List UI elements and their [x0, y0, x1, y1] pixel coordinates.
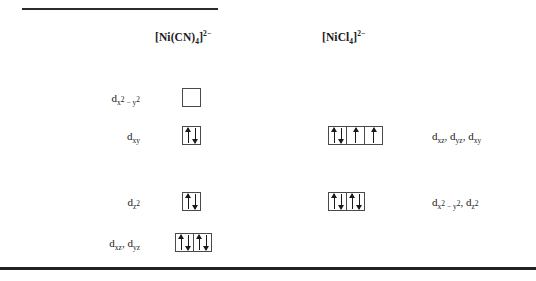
- arrow-head: [338, 139, 344, 144]
- electron-pair: [194, 234, 211, 251]
- electron-pair: [176, 234, 193, 251]
- electron-arrow-down: [192, 193, 199, 210]
- arrow-head: [185, 193, 191, 198]
- electron-arrow-up: [331, 127, 338, 144]
- arrow-head: [371, 127, 377, 132]
- electron-arrow-down: [356, 193, 363, 210]
- orbital-box-filled: [346, 192, 365, 211]
- column-header-ni-cn: [Ni(CN)4]2−: [155, 31, 211, 43]
- row-dx2y2-left-label: dx2 − y2: [0, 85, 140, 111]
- row-dz2-ni-cn-boxes: [182, 192, 201, 211]
- row-dxz-dyz-left-label: dxz, dyz: [0, 230, 140, 256]
- row-dz2: dz2dx2 − y2, dz2: [0, 189, 536, 215]
- arrow-head: [203, 246, 209, 251]
- arrow-head: [185, 246, 191, 251]
- electron-arrow-up: [349, 193, 356, 210]
- electron-arrow-up: [185, 193, 192, 210]
- orbital-box-filled: [182, 126, 201, 145]
- electron-arrow-down: [338, 127, 345, 144]
- arrow-head: [353, 127, 359, 132]
- electron-arrow-down: [185, 234, 192, 251]
- row-dz2-ni-cl-boxes: [328, 192, 365, 211]
- arrow-head: [338, 205, 344, 210]
- top-rule: [22, 8, 218, 10]
- row-dxz-dyz: dxz, dyz: [0, 230, 536, 256]
- orbital-box-filled: [346, 126, 365, 145]
- electron-arrow-up: [178, 234, 185, 251]
- arrow-head: [356, 205, 362, 210]
- bottom-rule: [0, 267, 536, 270]
- electron-arrow-up: [370, 127, 377, 144]
- row-dxz-dyz-ni-cn-boxes: [175, 233, 212, 252]
- row-dz2-left-label: dz2: [0, 189, 140, 215]
- electron-arrow-down: [192, 127, 199, 144]
- arrow-head: [192, 205, 198, 210]
- arrow-head: [349, 193, 355, 198]
- electron-arrow-up: [185, 127, 192, 144]
- row-dx2y2: dx2 − y2: [0, 85, 536, 111]
- electron-pair: [183, 193, 200, 210]
- electron-arrow-down: [338, 193, 345, 210]
- arrow-head: [196, 234, 202, 239]
- orbital-box-empty: [182, 88, 201, 107]
- electron-pair: [183, 127, 200, 144]
- row-dx2y2-ni-cn-boxes: [182, 88, 201, 107]
- arrow-head: [178, 234, 184, 239]
- arrow-head: [192, 139, 198, 144]
- electron-pair: [347, 127, 364, 144]
- electron-pair: [365, 127, 382, 144]
- arrow-head: [331, 127, 337, 132]
- arrow-head: [185, 127, 191, 132]
- orbital-box-filled: [364, 126, 383, 145]
- row-dxy-left-label: dxy: [0, 123, 140, 149]
- orbital-box-filled: [182, 192, 201, 211]
- electron-pair: [329, 127, 346, 144]
- column-header-ni-cl: [NiCl4]2−: [322, 31, 365, 43]
- row-dxy-ni-cn-boxes: [182, 126, 201, 145]
- orbital-splitting-diagram: [Ni(CN)4]2− [NiCl4]2− dx2 − y2dxydxz, dy…: [0, 0, 536, 281]
- electron-pair: [329, 193, 346, 210]
- row-dxy: dxydxz, dyz, dxy: [0, 123, 536, 149]
- orbital-box-filled: [328, 192, 347, 211]
- row-dxy-right-label: dxz, dyz, dxy: [432, 123, 481, 149]
- electron-arrow-up: [352, 127, 359, 144]
- electron-arrow-down: [203, 234, 210, 251]
- row-dxy-ni-cl-boxes: [328, 126, 383, 145]
- electron-pair: [347, 193, 364, 210]
- row-dz2-right-label: dx2 − y2, dz2: [432, 189, 479, 215]
- arrow-head: [331, 193, 337, 198]
- orbital-box-filled: [193, 233, 212, 252]
- orbital-box-filled: [328, 126, 347, 145]
- orbital-box-filled: [175, 233, 194, 252]
- electron-arrow-up: [331, 193, 338, 210]
- electron-arrow-up: [196, 234, 203, 251]
